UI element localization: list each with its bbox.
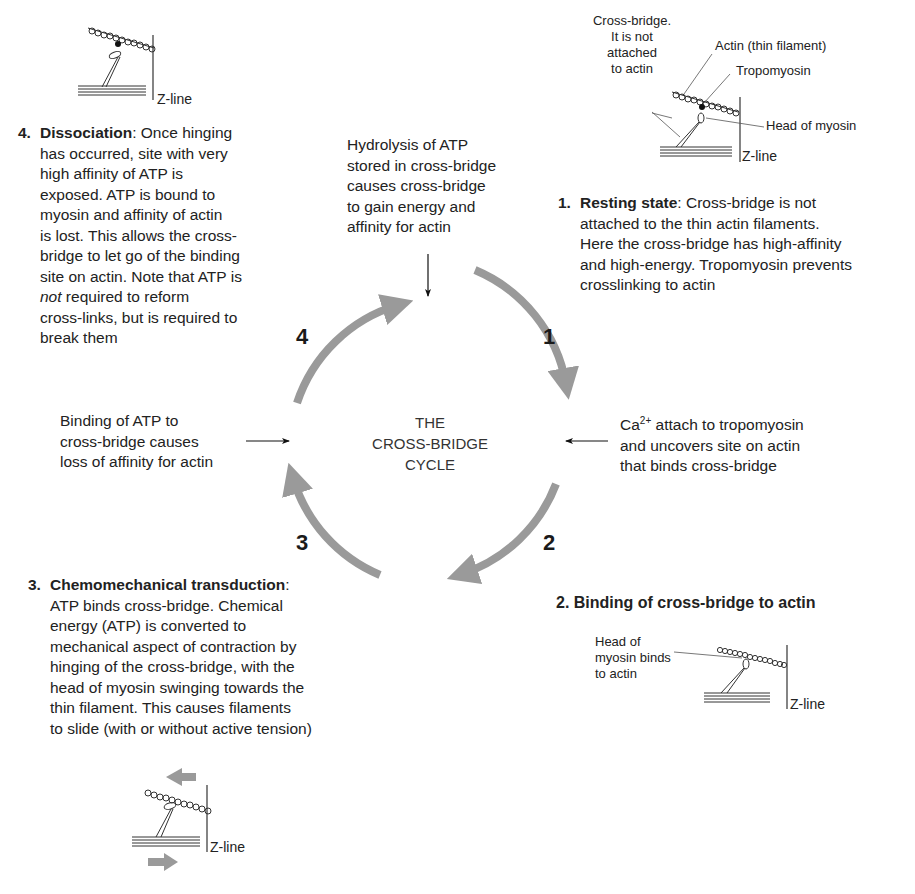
- cycle-number-3: 3: [296, 530, 308, 556]
- cycle-title: THE CROSS-BRIDGE CYCLE: [349, 412, 511, 475]
- cycle-arrow-3: [293, 478, 380, 575]
- calcium-annotation: Ca2+ attach to tropomyosin and uncovers …: [620, 411, 910, 477]
- cycle-number-2: 2: [543, 530, 555, 556]
- hydrolysis-annotation: Hydrolysis of ATP stored in cross-bridge…: [347, 135, 527, 238]
- step-2-title: Binding of cross-bridge to actin: [574, 594, 816, 611]
- step-3-chemomechanical: 3. Chemomechanical transduction: ATP bin…: [28, 575, 388, 739]
- actin-label: Actin (thin filament): [715, 38, 826, 54]
- step-4-dissociation: 4. Dissociation: Once hinging has occurr…: [18, 123, 308, 349]
- step-1-title: Resting state: [580, 194, 677, 211]
- atp-binding-annotation: Binding of ATP to cross-bridge causes lo…: [60, 411, 250, 473]
- cycle-arrow-4: [297, 305, 398, 403]
- cycle-number-4: 4: [296, 324, 308, 350]
- zline-label-chemomechanical: Z-line: [210, 839, 245, 855]
- cycle-arrow-2: [462, 484, 556, 574]
- zline-label-resting: Z-line: [742, 148, 777, 164]
- slide-arrow-right: [148, 853, 178, 871]
- cycle-number-1: 1: [543, 324, 555, 350]
- sarcomere-figure-dissociation: [78, 28, 155, 100]
- zline-label-dissociation: Z-line: [157, 91, 192, 107]
- step-1-resting-state: 1. Resting state: Cross-bridge is not at…: [558, 193, 908, 296]
- head-of-myosin-label: Head of myosin: [766, 118, 856, 134]
- tropomyosin-label: Tropomyosin: [736, 63, 811, 79]
- step-3-title: Chemomechanical transduction: [50, 576, 285, 593]
- sarcomere-figure-chemomechanical: [132, 785, 211, 852]
- step-4-title: Dissociation: [40, 124, 132, 141]
- slide-arrow-left: [166, 768, 196, 786]
- head-binds-label: Head of myosin binds to actin: [595, 634, 671, 682]
- cross-bridge-label: Cross-bridge. It is not attached to acti…: [584, 13, 680, 77]
- sarcomere-figure-binding: [674, 645, 787, 709]
- zline-label-binding: Z-line: [790, 696, 825, 712]
- step-2-binding: 2. Binding of cross-bridge to actin: [556, 593, 886, 614]
